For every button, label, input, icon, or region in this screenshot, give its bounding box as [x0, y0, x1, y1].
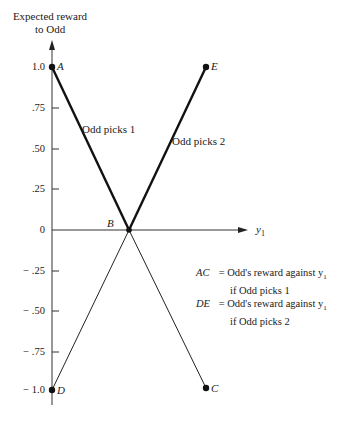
point-label-b: B: [107, 218, 114, 229]
legend-de-cont: if Odd picks 2: [196, 315, 327, 328]
tick-label-0.50: .50: [5, 144, 45, 155]
point-c: [203, 385, 209, 391]
chart-canvas: [0, 0, 344, 422]
tick-label-neg-0.25: − .25: [5, 266, 45, 277]
tick-label-0.75: .75: [5, 103, 45, 114]
legend: AC = Odd's reward against y1 if Odd pick…: [196, 266, 327, 328]
legend-ac: AC = Odd's reward against y1: [196, 266, 327, 284]
point-b: [126, 227, 132, 233]
line-ab-thick: [52, 67, 129, 230]
y-axis-title-line1: Expected reward: [4, 10, 96, 23]
legend-ac-cont: if Odd picks 1: [196, 284, 327, 297]
point-label-a: A: [57, 61, 64, 72]
y-axis-title-line2: to Odd: [4, 23, 96, 36]
tick-label-0: 0: [5, 225, 45, 236]
point-d: [49, 387, 55, 393]
legend-ac-key: AC: [196, 266, 216, 279]
line-db-thin: [52, 230, 129, 390]
line-label-odd-picks-2: Odd picks 2: [172, 136, 225, 147]
line-bc-thin: [129, 230, 206, 388]
tick-label-1.0: 1.0: [5, 62, 45, 73]
tick-label-0.25: .25: [5, 184, 45, 195]
legend-de-text: = Odd's reward against y: [219, 298, 324, 309]
line-be-thick: [129, 67, 206, 230]
tick-label-neg-0.50: − .50: [5, 306, 45, 317]
legend-de-key: DE: [196, 297, 216, 310]
tick-label-neg-1.0: − 1.0: [5, 385, 45, 396]
point-a: [49, 64, 55, 70]
y-axis-arrow-icon: [49, 40, 55, 50]
x-axis-title: y1: [256, 224, 265, 238]
legend-de-sub: 1: [323, 304, 327, 312]
x-axis-title-sub: 1: [261, 229, 265, 238]
y-axis-title: Expected reward to Odd: [4, 10, 96, 36]
point-label-c: C: [211, 383, 218, 394]
legend-de: DE = Odd's reward against y1: [196, 297, 327, 315]
point-e: [203, 64, 209, 70]
point-label-e: E: [211, 61, 218, 72]
point-label-d: D: [57, 385, 65, 396]
legend-ac-text: = Odd's reward against y: [219, 267, 324, 278]
line-label-odd-picks-1: Odd picks 1: [82, 124, 135, 135]
legend-ac-sub: 1: [323, 273, 327, 281]
x-axis-arrow-icon: [238, 227, 248, 233]
tick-label-neg-0.75: − .75: [5, 347, 45, 358]
